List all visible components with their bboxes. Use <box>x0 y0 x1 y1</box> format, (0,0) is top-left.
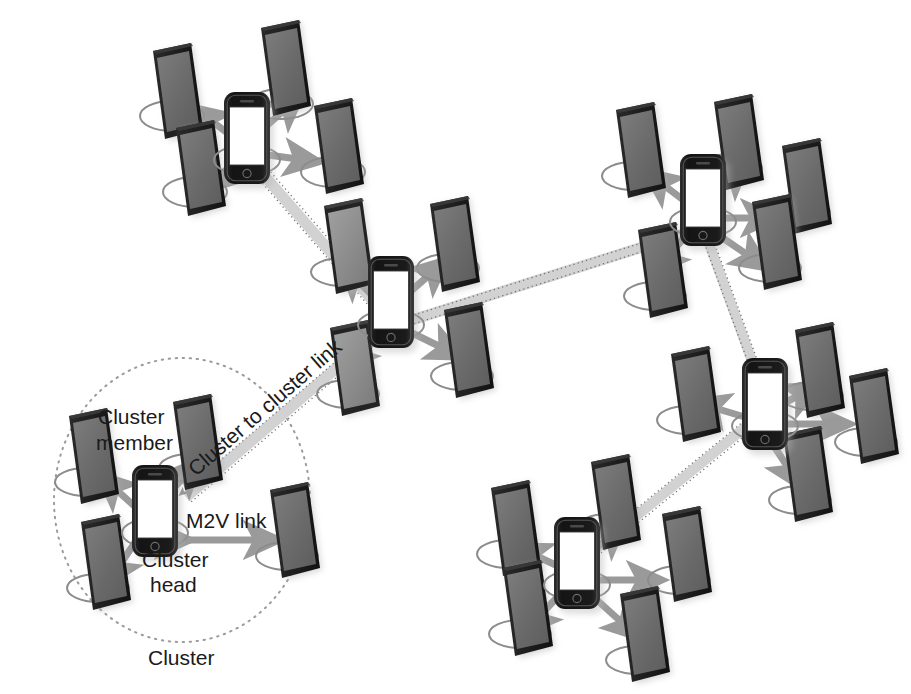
cluster-member-phone <box>444 302 496 400</box>
cluster-member-label-line2: member <box>96 431 173 454</box>
cluster-bottom <box>477 454 714 684</box>
cluster-right <box>657 322 901 524</box>
cluster-member-phone <box>616 102 668 200</box>
cluster-member-phone <box>620 586 672 684</box>
m2v-link-label: M2V link <box>186 509 267 532</box>
cluster-member-phone <box>270 482 322 580</box>
cluster-member-phone <box>849 368 901 466</box>
cluster-top-right <box>602 94 834 320</box>
cluster-head-label-line1: Cluster <box>142 548 209 571</box>
cluster-head-phone <box>742 358 792 455</box>
cluster-head-phone <box>554 517 604 614</box>
cluster-head-phone <box>224 92 274 189</box>
cluster-head-phone <box>368 256 418 353</box>
cluster-member-phone <box>430 196 482 294</box>
cluster-member-phone <box>662 506 714 604</box>
cluster-member-phone <box>314 98 366 196</box>
diagram-canvas: Cluster member Cluster head M2V link Clu… <box>0 0 911 694</box>
cluster-member-phone <box>503 560 555 658</box>
cluster-member-phone <box>81 514 133 612</box>
cluster-member-phone <box>795 322 847 420</box>
cluster-head-phone <box>680 154 730 251</box>
network-diagram-figure: Cluster member Cluster head M2V link Clu… <box>0 0 911 694</box>
cluster-label: Cluster <box>148 646 215 669</box>
cluster-member-label-line1: Cluster <box>98 405 165 428</box>
cluster-head-label-line2: head <box>150 573 197 596</box>
cluster-center <box>311 196 496 418</box>
cluster-top-left <box>140 20 366 218</box>
cluster-member-phone <box>671 346 723 444</box>
